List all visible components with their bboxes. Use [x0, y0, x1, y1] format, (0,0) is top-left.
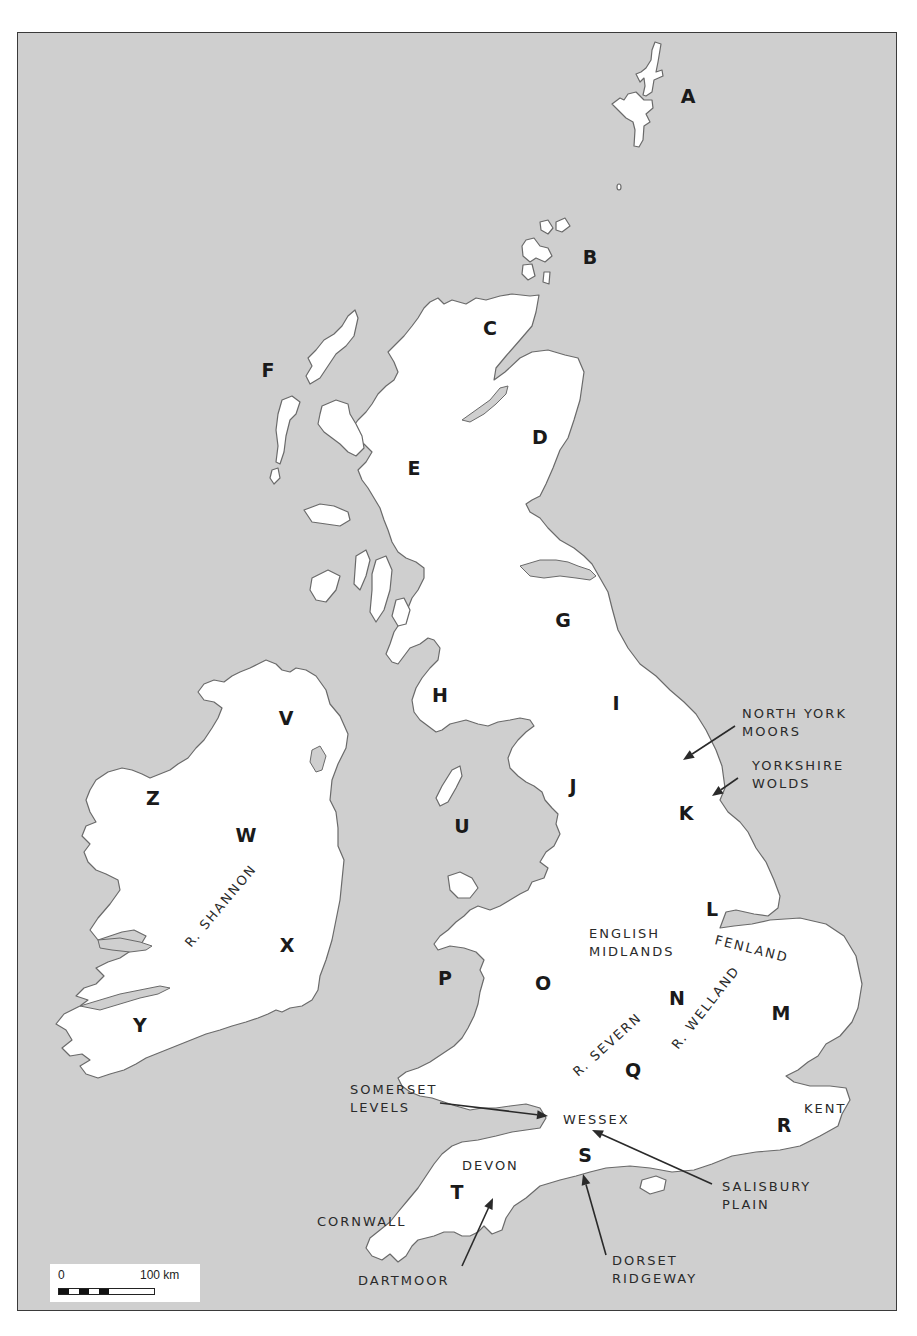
fair-isle	[617, 184, 621, 190]
label-j: J	[567, 775, 576, 797]
label-f: F	[262, 359, 275, 381]
isle-of-wight-landmass	[640, 1176, 666, 1194]
label-o: O	[535, 972, 551, 994]
label-g: G	[555, 609, 571, 631]
region-label-dorset-ridgeway: DORSETRIDGEWAY	[612, 1253, 697, 1286]
label-d: D	[532, 426, 548, 448]
anglesey-landmass	[448, 872, 478, 898]
label-a: A	[681, 85, 696, 107]
region-label-north-york-moors: NORTH YORKMOORS	[742, 706, 847, 739]
region-label-cornwall: CORNWALL	[317, 1214, 407, 1229]
scale-end-label: 100 km	[140, 1268, 179, 1282]
region-label-salisbury-plain: SALISBURYPLAIN	[722, 1179, 811, 1212]
dorset-ridgeway-arrow	[582, 1174, 606, 1255]
region-label-somerset-levels: SOMERSETLEVELS	[350, 1082, 437, 1115]
region-label-dartmoor: DARTMOOR	[358, 1273, 449, 1288]
label-s: S	[578, 1144, 592, 1166]
label-p: P	[438, 967, 452, 989]
outer-hebrides-landmass	[270, 310, 358, 484]
shetland-landmass	[612, 42, 663, 147]
label-n: N	[669, 987, 685, 1009]
label-i: I	[612, 692, 619, 714]
label-c: C	[483, 317, 497, 339]
map-canvas: ABCDEFGHIJKLMNOPQRSTUVWXYZ NORTH YORKMOO…	[0, 0, 917, 1336]
label-y: Y	[132, 1014, 147, 1036]
orkney-landmass	[522, 218, 570, 284]
region-label-kent: KENT	[804, 1101, 846, 1116]
label-e: E	[408, 457, 421, 479]
label-t: T	[451, 1181, 464, 1203]
label-r: R	[777, 1114, 792, 1136]
label-u: U	[454, 815, 469, 837]
scale-bar: 0 100 km	[50, 1264, 200, 1302]
skye-landmass	[318, 400, 364, 456]
region-label-devon: DEVON	[462, 1158, 519, 1173]
label-x: X	[280, 934, 295, 956]
label-m: M	[772, 1002, 791, 1024]
region-label-yorkshire-wolds: YORKSHIREWOLDS	[751, 758, 844, 791]
kintyre-landmass	[370, 556, 392, 622]
label-k: K	[679, 802, 695, 824]
label-q: Q	[625, 1059, 641, 1081]
scale-start-label: 0	[58, 1268, 65, 1282]
islay-jura-landmass	[310, 550, 370, 602]
landmasses	[56, 42, 862, 1262]
scale-bar-graphic	[58, 1288, 155, 1295]
mull-landmass	[304, 504, 350, 526]
ireland-landmass	[56, 660, 348, 1078]
label-b: B	[583, 246, 597, 268]
label-z: Z	[146, 787, 160, 809]
label-h: H	[432, 684, 448, 706]
isle-of-man-landmass	[436, 766, 462, 806]
region-label-wessex: WESSEX	[563, 1112, 630, 1127]
label-l: L	[706, 898, 718, 920]
label-w: W	[236, 824, 257, 846]
label-v: V	[279, 707, 294, 729]
